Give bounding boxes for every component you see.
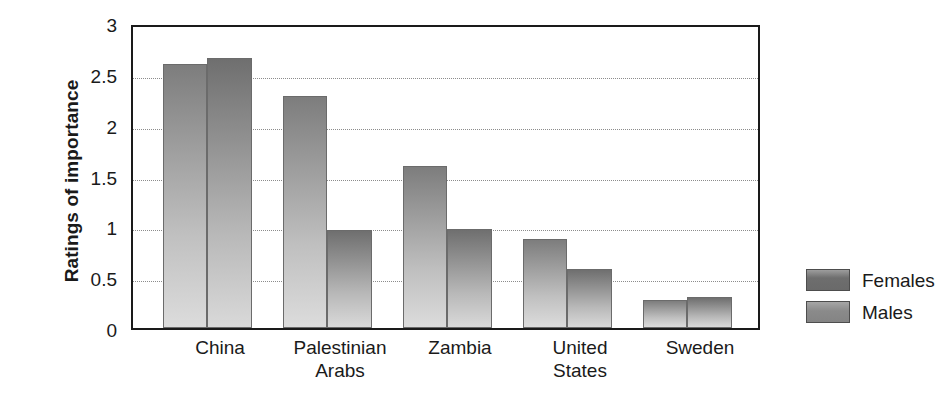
- x-category-label-sweden: Sweden: [611, 336, 789, 359]
- bar-united-states-males: [567, 269, 612, 328]
- y-tick-label-0.5: 0.5: [57, 270, 117, 289]
- bar-zambia-females: [403, 166, 447, 328]
- plot-area: [131, 25, 760, 330]
- legend-item-females: Females: [806, 264, 936, 296]
- y-tick-label-3: 3: [57, 16, 117, 35]
- legend: Females Males: [806, 264, 936, 328]
- legend-item-males: Males: [806, 296, 936, 328]
- plot-inner: [133, 27, 758, 328]
- bar-zambia-males: [447, 229, 492, 328]
- bar-china-males: [207, 58, 252, 328]
- legend-swatch-males-icon: [806, 301, 850, 323]
- y-tick-label-0: 0: [57, 321, 117, 340]
- legend-label-males: Males: [862, 303, 913, 322]
- y-axis-ticks: 3 2.5 2 1.5 1 0.5 0: [55, 0, 117, 403]
- y-tick-label-1: 1: [57, 219, 117, 238]
- y-tick-label-1.5: 1.5: [57, 168, 117, 187]
- bar-sweden-males: [687, 297, 732, 329]
- y-tick-label-2: 2: [57, 117, 117, 136]
- bar-palestinian-arabs-females: [283, 96, 327, 328]
- bar-chart-figure: Ratings of importance 3 2.5 2 1.5 1 0.5 …: [0, 0, 939, 403]
- bar-sweden-females: [643, 300, 687, 329]
- bar-china-females: [163, 64, 207, 328]
- bar-united-states-females: [523, 239, 567, 329]
- legend-swatch-females-icon: [806, 269, 850, 291]
- legend-label-females: Females: [862, 271, 935, 290]
- y-tick-label-2.5: 2.5: [57, 66, 117, 85]
- bar-palestinian-arabs-males: [327, 230, 372, 328]
